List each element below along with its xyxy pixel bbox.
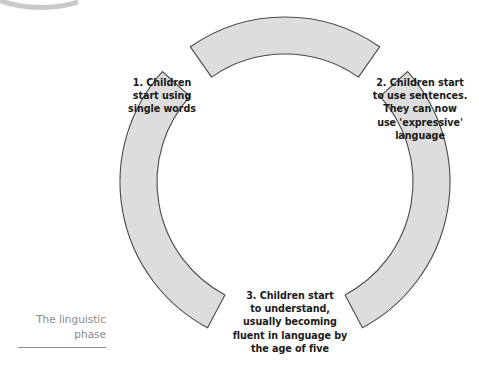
cycle-label-2-line-3: They can now (363, 102, 477, 115)
cycle-label-3-line-5: the age of five (225, 342, 355, 355)
cycle-label-2-line-1: 2. Children start (363, 76, 477, 89)
cycle-label-3-line-1: 3. Children start (225, 289, 355, 302)
cycle-label-3-line-4: fluent in language by (225, 329, 355, 342)
cycle-label-1-line-3: single words (112, 102, 212, 115)
cycle-label-3-line-2: to understand, (225, 302, 355, 315)
cycle-label-2: 2. Children start to use sentences. They… (363, 76, 477, 142)
cycle-label-1-line-2: start using (112, 89, 212, 102)
ring-segment-top (190, 17, 379, 77)
cycle-label-3: 3. Children start to understand, usually… (225, 289, 355, 355)
page-edge-artifact-arc (0, 0, 78, 8)
diagram-caption-line-1: The linguistic (8, 312, 106, 327)
diagram-caption: The linguistic phase (8, 312, 106, 342)
diagram-caption-line-2: phase (8, 327, 106, 342)
cycle-label-2-line-4: use 'expressive' (363, 116, 477, 129)
cycle-label-1-line-1: 1. Children (112, 76, 212, 89)
diagram-caption-rule (18, 347, 106, 348)
cycle-label-2-line-2: to use sentences. (363, 89, 477, 102)
cycle-label-1: 1. Children start using single words (112, 76, 212, 116)
diagram-page: 1. Children start using single words 2. … (0, 0, 479, 372)
cycle-label-2-line-5: language (363, 129, 477, 142)
cycle-label-3-line-3: usually becoming (225, 315, 355, 328)
